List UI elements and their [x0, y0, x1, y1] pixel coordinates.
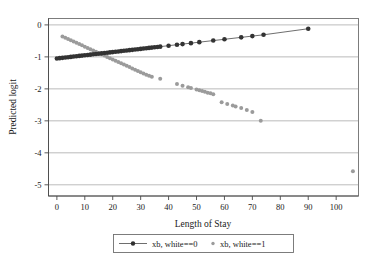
data-point	[189, 86, 193, 90]
data-point	[175, 82, 179, 86]
data-point	[261, 33, 266, 38]
x-tick-label: 30	[136, 202, 145, 212]
x-tick-label: 40	[164, 202, 173, 212]
legend-label-series-1: xb, white==1	[220, 239, 265, 249]
y-tick-label: -5	[34, 180, 41, 190]
data-point	[197, 40, 202, 45]
data-point	[351, 169, 355, 173]
data-point	[158, 77, 162, 81]
data-point	[189, 41, 194, 46]
data-point	[211, 38, 216, 43]
legend-label-series-0: xb, white==0	[152, 239, 197, 249]
data-point	[306, 26, 311, 31]
x-tick-label: 70	[248, 202, 257, 212]
data-point	[250, 110, 254, 114]
data-point	[239, 35, 244, 40]
data-point	[245, 108, 249, 112]
predicted-logit-chart: 0-1-2-3-4-5 0102030405060708090100 Predi…	[0, 0, 376, 265]
x-tick-label: 90	[304, 202, 313, 212]
data-point	[222, 37, 227, 42]
data-point	[211, 92, 215, 96]
x-axis-title: Length of Stay	[175, 219, 232, 229]
y-tick-label: -2	[34, 84, 41, 94]
data-point	[180, 42, 185, 47]
y-tick-label: -1	[34, 52, 41, 62]
data-point	[234, 104, 238, 108]
x-tick-label: 60	[220, 202, 229, 212]
x-tick-label: 0	[55, 202, 59, 212]
data-point	[225, 102, 229, 106]
legend-marker-dot-series-1	[211, 242, 214, 245]
legend: xb, white==0 xb, white==1	[114, 235, 294, 253]
x-tick-label: 10	[81, 202, 90, 212]
x-tick-label: 80	[276, 202, 285, 212]
data-point	[181, 84, 185, 88]
data-point	[150, 75, 154, 79]
data-point	[220, 100, 224, 104]
data-point	[166, 43, 171, 48]
data-point	[158, 44, 163, 49]
data-point	[259, 119, 263, 123]
data-point	[250, 34, 255, 39]
y-tick-label: -4	[34, 148, 42, 158]
y-tick-label: -3	[34, 116, 41, 126]
x-tick-label: 100	[330, 202, 343, 212]
data-point	[175, 42, 180, 47]
y-tick-label: 0	[37, 20, 41, 30]
legend-marker-dot-series-0	[131, 241, 135, 245]
y-axis-title: Predicted logit	[8, 79, 18, 135]
data-point	[239, 106, 243, 110]
x-tick-label: 50	[192, 202, 201, 212]
x-tick-label: 20	[108, 202, 117, 212]
